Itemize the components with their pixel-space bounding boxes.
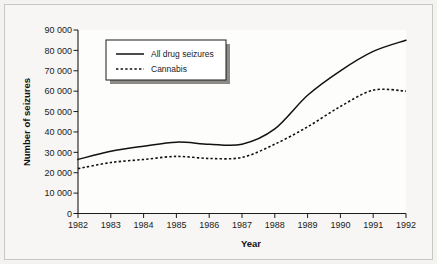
x-axis-tick-labels: 1982198319841985198619871988198919901991…	[68, 220, 416, 230]
y-tick-label: 60 000	[44, 86, 72, 96]
x-tick-label: 1987	[232, 220, 252, 230]
chart-figure: 010 00020 00030 00040 00050 00060 00070 …	[0, 0, 437, 264]
x-tick-label: 1989	[298, 220, 318, 230]
x-axis-tick-marks	[78, 214, 406, 219]
x-tick-label: 1985	[166, 220, 186, 230]
y-axis-title: Number of seizures	[21, 78, 32, 166]
y-tick-label: 20 000	[44, 168, 72, 178]
x-tick-label: 1986	[199, 220, 219, 230]
y-axis-tick-labels: 010 00020 00030 00040 00050 00060 00070 …	[44, 25, 72, 219]
x-tick-label: 1992	[396, 220, 416, 230]
legend: All drug seizures Cannabis	[106, 40, 230, 84]
line-chart: 010 00020 00030 00040 00050 00060 00070 …	[0, 0, 437, 264]
legend-label-all-drug-seizures: All drug seizures	[151, 49, 214, 59]
y-tick-label: 0	[67, 209, 72, 219]
x-axis-title: Year	[241, 238, 261, 249]
y-tick-label: 30 000	[44, 148, 72, 158]
y-tick-label: 90 000	[44, 25, 72, 35]
x-tick-label: 1988	[265, 220, 285, 230]
x-tick-label: 1991	[363, 220, 383, 230]
y-tick-label: 80 000	[44, 46, 72, 56]
x-tick-label: 1990	[330, 220, 350, 230]
y-tick-label: 10 000	[44, 188, 72, 198]
y-tick-label: 70 000	[44, 66, 72, 76]
legend-label-cannabis: Cannabis	[151, 64, 187, 74]
x-tick-label: 1984	[134, 220, 154, 230]
y-axis-tick-marks	[74, 30, 79, 214]
legend-box	[106, 40, 226, 80]
x-tick-label: 1982	[68, 220, 88, 230]
y-tick-label: 50 000	[44, 107, 72, 117]
y-tick-label: 40 000	[44, 127, 72, 137]
x-tick-label: 1983	[101, 220, 121, 230]
